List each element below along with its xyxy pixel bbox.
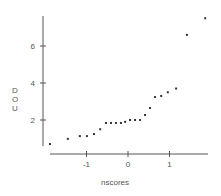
y-axis: 246 — [31, 16, 46, 146]
x-axis-label: nscores — [101, 178, 129, 187]
data-point — [129, 119, 131, 121]
data-point — [110, 122, 112, 124]
y-axis-label-letter-2: O — [12, 95, 18, 104]
data-point — [160, 95, 162, 97]
data-point — [134, 119, 136, 121]
data-points — [49, 17, 206, 145]
x-tick-label: 1 — [167, 160, 172, 169]
y-axis-label-letter-1: D — [12, 86, 18, 95]
data-point — [99, 128, 101, 130]
y-tick-label: 4 — [31, 79, 36, 88]
data-point — [49, 143, 51, 145]
x-axis: -101 — [50, 151, 208, 169]
data-point — [105, 122, 107, 124]
data-point — [186, 34, 188, 36]
data-point — [167, 91, 169, 93]
y-ticks: 246 — [31, 42, 46, 125]
data-point — [124, 121, 126, 123]
y-tick-label: 2 — [31, 116, 36, 125]
data-point — [139, 119, 141, 121]
x-tick-label: -1 — [83, 160, 91, 169]
data-point — [154, 96, 156, 98]
data-point — [204, 17, 206, 19]
data-point — [79, 135, 81, 137]
y-axis-label-letter-3: U — [12, 104, 18, 113]
x-tick-label: 0 — [126, 160, 131, 169]
data-point — [175, 88, 177, 90]
y-tick-label: 6 — [31, 42, 36, 51]
data-point — [115, 122, 117, 124]
data-point — [120, 122, 122, 124]
data-point — [93, 133, 95, 135]
data-point — [149, 107, 151, 109]
scatter-chart: 246 -101 D O U nscores — [0, 0, 221, 196]
data-point — [86, 135, 88, 137]
y-axis-label: D O U — [12, 86, 18, 113]
data-point — [144, 114, 146, 116]
data-point — [67, 138, 69, 140]
